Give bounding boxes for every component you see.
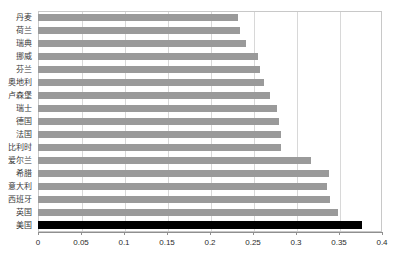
x-axis-tick-label: 0.15 <box>152 238 182 247</box>
y-axis-label: 希腊 <box>0 167 35 180</box>
bar-row <box>38 219 382 232</box>
x-axis-tick-label: 0.4 <box>367 238 395 247</box>
bar[interactable] <box>38 144 281 151</box>
y-axis-label: 爱尔兰 <box>0 154 35 167</box>
bar-row <box>38 24 382 37</box>
x-axis-tick-label: 0.1 <box>109 238 139 247</box>
y-axis-label: 法国 <box>0 128 35 141</box>
y-axis-label: 丹麦 <box>0 11 35 24</box>
bar-highlighted[interactable] <box>38 221 362 229</box>
x-axis-tick-label: 0.05 <box>66 238 96 247</box>
bar-row <box>38 102 382 115</box>
y-axis-label: 荷兰 <box>0 24 35 37</box>
bar-row <box>38 180 382 193</box>
bar[interactable] <box>38 79 264 86</box>
bar[interactable] <box>38 14 238 21</box>
x-axis-tick-mark <box>124 232 125 235</box>
bar[interactable] <box>38 183 327 190</box>
bar-row <box>38 11 382 24</box>
bar[interactable] <box>38 157 311 164</box>
y-axis-label: 西班牙 <box>0 193 35 206</box>
bar-row <box>38 76 382 89</box>
y-axis-label: 德国 <box>0 115 35 128</box>
x-axis-tick-mark <box>81 232 82 235</box>
bar-row <box>38 63 382 76</box>
x-axis-tick-mark <box>382 232 383 235</box>
x-axis-tick-label: 0.25 <box>238 238 268 247</box>
bar-row <box>38 115 382 128</box>
bar-row <box>38 193 382 206</box>
bar[interactable] <box>38 53 258 60</box>
x-axis-tick-label: 0.3 <box>281 238 311 247</box>
x-axis-tick-label: 0.2 <box>195 238 225 247</box>
x-axis-tick-mark <box>296 232 297 235</box>
y-axis-label: 瑞士 <box>0 102 35 115</box>
bar[interactable] <box>38 118 279 125</box>
x-axis-tick-mark <box>210 232 211 235</box>
bar-row <box>38 141 382 154</box>
y-axis-label: 美国 <box>0 219 35 232</box>
bar[interactable] <box>38 196 330 203</box>
x-axis-tick-label: 0 <box>23 238 53 247</box>
y-axis-label: 瑞典 <box>0 37 35 50</box>
y-axis-label: 挪威 <box>0 50 35 63</box>
bar-row <box>38 167 382 180</box>
bars-layer <box>38 11 382 232</box>
bar[interactable] <box>38 105 277 112</box>
bar-row <box>38 206 382 219</box>
bar[interactable] <box>38 40 246 47</box>
bar-chart: 丹麦荷兰瑞典挪威芬兰奥地利卢森堡瑞士德国法国比利时爱尔兰希腊意大利西班牙英国美国… <box>0 0 395 257</box>
bar-row <box>38 37 382 50</box>
bar[interactable] <box>38 131 281 138</box>
bar-row <box>38 128 382 141</box>
chart-title <box>0 0 395 6</box>
bar-row <box>38 50 382 63</box>
y-axis-label: 意大利 <box>0 180 35 193</box>
bar[interactable] <box>38 92 270 99</box>
bar[interactable] <box>38 170 329 177</box>
bar-row <box>38 89 382 102</box>
bar[interactable] <box>38 209 338 216</box>
bar-row <box>38 154 382 167</box>
y-axis-label: 芬兰 <box>0 63 35 76</box>
bar[interactable] <box>38 27 240 34</box>
x-axis-tick-mark <box>38 232 39 235</box>
y-axis-category-labels: 丹麦荷兰瑞典挪威芬兰奥地利卢森堡瑞士德国法国比利时爱尔兰希腊意大利西班牙英国美国 <box>0 11 35 232</box>
x-axis-tick-label: 0.35 <box>324 238 354 247</box>
bar[interactable] <box>38 66 260 73</box>
x-axis-tick-mark <box>253 232 254 235</box>
y-axis-label: 英国 <box>0 206 35 219</box>
y-axis-label: 奥地利 <box>0 76 35 89</box>
x-axis-tick-mark <box>339 232 340 235</box>
y-axis-label: 卢森堡 <box>0 89 35 102</box>
y-axis-label: 比利时 <box>0 141 35 154</box>
x-axis-tick-mark <box>167 232 168 235</box>
